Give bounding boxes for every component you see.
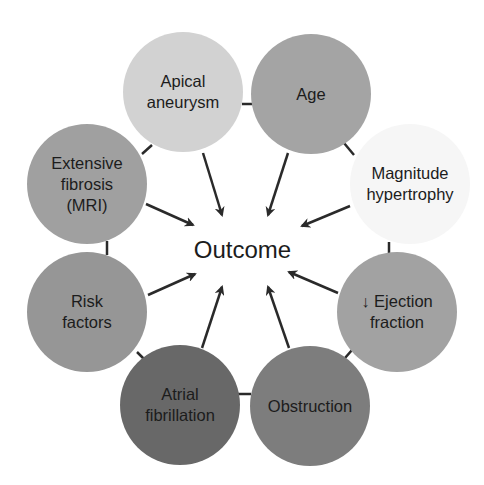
arrow-risk-factors-to-outcome: [148, 274, 195, 295]
node-atrial-fibrillation: Atrial fibrillation: [120, 345, 240, 465]
node-ejection-fraction: ↓ Ejection fraction: [337, 252, 457, 372]
node-apical-aneurysm: Apical aneurysm: [123, 32, 243, 152]
connector-line: [344, 143, 354, 155]
arrow-obstruction-to-outcome: [268, 287, 289, 348]
arrow-magnitude-hypertrophy-to-outcome: [302, 206, 350, 226]
arrow-age-to-outcome: [268, 153, 288, 215]
arrow-atrial-fibrillation-to-outcome: [202, 287, 222, 348]
arrow-extensive-fibrosis-to-outcome: [146, 204, 193, 225]
node-label: ↓ Ejection fraction: [361, 291, 433, 333]
node-risk-factors: Risk factors: [27, 252, 147, 372]
arrow-apical-aneurysm-to-outcome: [203, 153, 222, 215]
node-magnitude-hypertrophy: Magnitude hypertrophy: [350, 124, 470, 244]
node-label: Atrial fibrillation: [145, 384, 215, 426]
outcome-factors-diagram: Apical aneurysmAgeMagnitude hypertrophy↓…: [0, 0, 484, 485]
node-obstruction: Obstruction: [250, 346, 370, 466]
connector-line: [142, 145, 152, 154]
outcome-label: Outcome: [160, 236, 325, 264]
node-age: Age: [251, 34, 371, 154]
node-label: Age: [296, 84, 325, 105]
node-label: Risk factors: [62, 291, 112, 333]
arrow-ejection-fraction-to-outcome: [289, 272, 338, 293]
node-label: Magnitude hypertrophy: [366, 163, 453, 205]
node-extensive-fibrosis: Extensive fibrosis (MRI): [27, 124, 147, 244]
node-label: Apical aneurysm: [147, 71, 219, 113]
node-label: Extensive fibrosis (MRI): [51, 153, 123, 216]
node-label: Obstruction: [268, 396, 352, 417]
